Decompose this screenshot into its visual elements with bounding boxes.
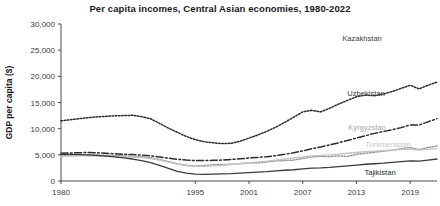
chart-container: Per capita incomes, Central Asian econom… (0, 0, 440, 206)
x-tick-label: 2019 (401, 188, 419, 197)
y-tick-label: 30,000 (31, 20, 56, 29)
line-chart-plot: 30,00025,00020,00015,00010,0005,00001980… (0, 0, 440, 206)
x-tick-label: 2001 (240, 188, 258, 197)
y-tick-label: 10,000 (31, 125, 56, 134)
y-tick-label: 5,000 (35, 151, 56, 160)
y-tick-label: 25,000 (31, 46, 56, 55)
x-tick-label: 2013 (348, 188, 366, 197)
x-tick-label: 1980 (52, 188, 70, 197)
y-tick-label: 20,000 (31, 72, 56, 81)
x-tick-label: 2007 (294, 188, 312, 197)
series-label-tajikistan: Tajikistan (364, 168, 395, 177)
y-tick-label: 15,000 (31, 99, 56, 108)
x-tick-label: 1995 (186, 188, 204, 197)
series-label-kyrgyzstan: Kyrgyzstan (348, 123, 386, 132)
series-label-turkmenistan: Turkmenistan (365, 140, 411, 149)
series-label-uzbekistan: Uzbekistan (347, 89, 385, 98)
y-tick-label: 0 (51, 177, 56, 186)
y-axis-title: GDP per capita ($) (4, 66, 14, 140)
series-label-kazakhstan: Kazakhstan (342, 34, 382, 43)
